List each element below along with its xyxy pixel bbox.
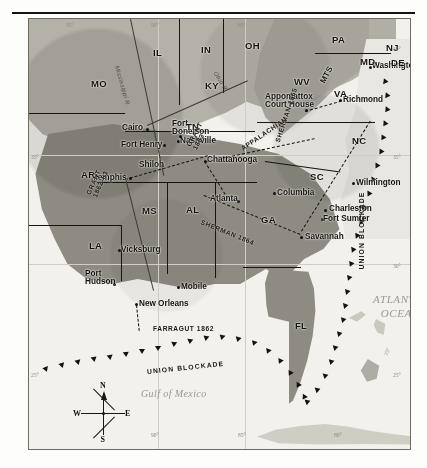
state-label-fl: FL <box>295 321 307 331</box>
city-dot-savannah <box>300 236 303 239</box>
city-label-fort-henry: Fort Henry <box>121 141 162 149</box>
blockade-arrow-atlantic-18 <box>379 148 384 154</box>
blockade-arrow-gulf-4 <box>107 355 114 361</box>
blockade-arrow-atlantic-21 <box>385 106 391 112</box>
meridian-85 <box>245 19 246 449</box>
compass-label-north: N <box>100 381 106 390</box>
city-dot-new-orleans <box>135 303 138 306</box>
border-il-in <box>179 19 180 105</box>
city-label-chattanooga: Chattanooga <box>207 156 257 164</box>
state-label-va: VA <box>334 89 347 99</box>
graticule-left-0: 35° <box>31 155 39 161</box>
blockade-arrow-atlantic-9 <box>347 274 353 281</box>
graticule-bottom-1: 85° <box>238 433 246 439</box>
border-mo-ar <box>29 113 125 114</box>
compass-label-west: W <box>73 409 81 418</box>
border-ar-la <box>29 225 121 226</box>
blockade-arrow-gulf-7 <box>155 346 161 351</box>
city-dot-charleston <box>324 209 327 212</box>
blockade-arrow-atlantic-7 <box>343 302 349 309</box>
city-label-shiloh: Shiloh <box>139 161 164 169</box>
compass-rose: N S E W <box>73 383 133 445</box>
state-label-mo: MO <box>91 79 107 89</box>
state-label-md: MD <box>360 57 375 67</box>
blockade-arrow-atlantic-11 <box>351 246 357 253</box>
city-label-cairo: Cairo <box>122 124 143 132</box>
map-page: Washington, D.C.RichmondAppomattox Court… <box>0 0 427 468</box>
city-dot-richmond <box>339 99 342 102</box>
campaign-label-farragut-1862: FARRAGUT 1862 <box>153 326 214 333</box>
city-label-columbia: Columbia <box>277 189 314 197</box>
state-label-la: LA <box>89 241 102 251</box>
blockade-arrow-gulf-9 <box>187 339 194 345</box>
blockade-arrow-atlantic-10 <box>349 260 355 267</box>
graticule-top-2: 85° <box>238 23 246 29</box>
graticule-top-1: 90° <box>151 23 159 29</box>
blockade-arrow-atlantic-8 <box>345 288 351 295</box>
state-label-il: IL <box>153 48 162 58</box>
blockade-arrow-gulf-5 <box>123 352 129 358</box>
compass-label-east: E <box>125 409 130 418</box>
city-dot-cairo <box>146 128 149 131</box>
city-dot-columbia <box>273 192 276 195</box>
blockade-arrow-gulf-8 <box>171 342 177 347</box>
border-tn-ms-al-ga <box>97 182 257 183</box>
city-dot-wilmington <box>352 182 355 185</box>
compass-label-south: S <box>101 435 105 444</box>
city-label-new-orleans: New Orleans <box>139 300 189 308</box>
meridian-90 <box>158 19 159 449</box>
blockade-arrow-atlantic-6 <box>341 316 347 323</box>
border-ga-fl <box>243 267 301 268</box>
atlantic-ocean-label: ATLANTIC OCEAN <box>373 293 411 321</box>
city-label-vicksburg: Vicksburg <box>121 246 160 254</box>
state-label-al: AL <box>186 205 199 215</box>
city-dot-mobile <box>177 286 180 289</box>
city-label-richmond: Richmond <box>343 96 383 104</box>
compass-north-needle <box>101 391 107 400</box>
blockade-arrow-gulf-10 <box>203 336 210 342</box>
page-top-rule <box>12 12 415 14</box>
city-label-atlanta: Atlanta <box>210 195 238 203</box>
blockade-arrow-atlantic-23 <box>383 78 389 85</box>
graticule-right-0: 40° <box>393 47 401 53</box>
city-label-port: Port Hudson <box>85 270 115 287</box>
blockade-arrow-gulf-6 <box>139 349 145 354</box>
state-label-ga: GA <box>261 215 276 225</box>
state-label-ms: MS <box>142 206 157 216</box>
blockade-arrow-atlantic-19 <box>381 134 386 140</box>
blockade-arrow-atlantic-17 <box>375 162 380 168</box>
state-label-wv: WV <box>294 77 310 87</box>
state-label-nc: NC <box>352 136 366 146</box>
state-label-oh: OH <box>245 41 260 51</box>
city-label-wilmington: Wilmington <box>356 179 401 187</box>
graticule-left-1: 25° <box>31 373 39 379</box>
blockade-arrow-atlantic-5 <box>337 330 343 337</box>
blockade-arrow-atlantic-15 <box>367 190 372 196</box>
city-label-savannah: Savannah <box>305 233 344 241</box>
graticule-top-0: 95° <box>66 23 74 29</box>
map-frame: Washington, D.C.RichmondAppomattox Court… <box>28 18 411 450</box>
border-pa-md <box>315 53 391 54</box>
border-ms-al <box>167 182 168 274</box>
blockade-arrow-atlantic-22 <box>385 92 391 99</box>
state-label-de: DE <box>391 58 405 68</box>
city-label-mobile: Mobile <box>181 283 207 291</box>
graticule-bottom-2: 80° <box>334 433 342 439</box>
state-label-pa: PA <box>332 35 345 45</box>
graticule-right-1: 35° <box>393 155 401 161</box>
state-label-in: IN <box>201 45 211 55</box>
blockade-label-1: UNION BLOCKADE <box>359 192 366 270</box>
graticule-right-2: 30° <box>393 264 401 270</box>
graticule-bottom-0: 90° <box>151 433 159 439</box>
city-dot-fort-henry <box>163 144 166 147</box>
state-label-ky: KY <box>205 81 219 91</box>
blockade-arrow-atlantic-20 <box>383 120 388 126</box>
compass-hub <box>102 412 105 415</box>
state-label-sc: SC <box>310 172 324 182</box>
gulf-of-mexico-label: Gulf of Mexico <box>141 389 207 399</box>
blockade-arrow-gulf-11 <box>219 334 226 340</box>
graticule-right-3: 25° <box>393 373 401 379</box>
city-dot-memphis <box>129 177 132 180</box>
